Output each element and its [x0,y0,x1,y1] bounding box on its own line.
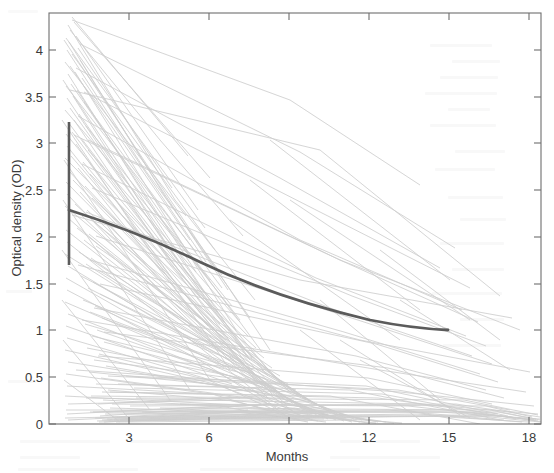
y-tick-label-3: 1.5 [25,277,43,292]
x-tick-label-1: 6 [205,430,212,445]
x-tick-label-0: 3 [125,430,132,445]
x-tick-label-5: 18 [522,430,536,445]
y-tick-label-5: 2.5 [25,183,43,198]
x-axis-title: Months [266,449,309,464]
y-axis-title: Optical density (OD) [9,159,24,276]
y-tick-label-4: 2 [36,230,43,245]
chart-figure: 0 0.5 1 1.5 2 2.5 3 3.5 4 3 6 9 12 15 18… [0,0,554,473]
y-tick-label-7: 3.5 [25,90,43,105]
y-tick-label-1: 0.5 [25,370,43,385]
x-tick-label-3: 12 [362,430,376,445]
x-tick-label-4: 15 [442,430,456,445]
y-tick-label-0: 0 [36,417,43,432]
optical-density-spaghetti-plot: 0 0.5 1 1.5 2 2.5 3 3.5 4 3 6 9 12 15 18… [0,0,554,473]
y-tick-label-6: 3 [36,136,43,151]
y-tick-label-8: 4 [36,43,43,58]
x-tick-label-2: 9 [285,430,292,445]
y-tick-label-2: 1 [36,323,43,338]
